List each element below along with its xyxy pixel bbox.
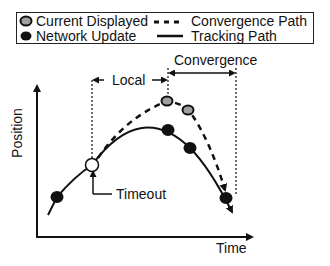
current-displayed-point-2 [183, 106, 194, 115]
legend-tracking-path: Tracking Path [191, 29, 277, 43]
network-update-point-1 [51, 191, 64, 203]
y-axis-label: Position [10, 108, 24, 158]
network-update-point-2 [162, 124, 175, 136]
x-axis-label: Time [216, 241, 247, 255]
network-update-point-4 [220, 192, 233, 204]
legend-network-update: Network Update [36, 29, 136, 43]
convergence-label: Convergence [174, 53, 257, 67]
timeout-point [86, 159, 99, 172]
convergence-path [98, 101, 225, 190]
network-update-point-3 [184, 142, 197, 154]
network-update-marker-icon [21, 32, 32, 41]
current-displayed-marker-icon [21, 17, 32, 26]
legend: Current Displayed Network Update Converg… [16, 12, 314, 44]
legend-current-displayed: Current Displayed [36, 14, 148, 28]
current-displayed-point-1 [162, 97, 173, 106]
legend-convergence-path: Convergence Path [191, 14, 307, 28]
local-label: Local [112, 73, 145, 87]
timeout-label: Timeout [116, 187, 166, 201]
